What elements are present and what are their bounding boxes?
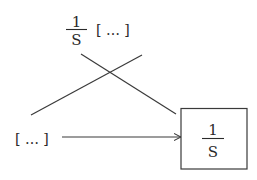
connector-left-to-topright <box>31 55 142 115</box>
block-denominator: S <box>208 143 218 161</box>
integrator-block: 1 S <box>181 109 247 170</box>
left-bracket-label: [ … ] <box>15 131 49 147</box>
diagram-canvas: 1 S [ … ] [ … ] 1 S <box>0 0 257 180</box>
top-fraction-numerator: 1 <box>72 13 82 31</box>
top-fraction-denominator: S <box>71 31 81 49</box>
connector-top-to-block <box>81 54 176 114</box>
top-fraction: 1 S <box>66 13 87 49</box>
block-numerator: 1 <box>208 121 218 139</box>
top-bracket-label: [ … ] <box>96 22 130 38</box>
